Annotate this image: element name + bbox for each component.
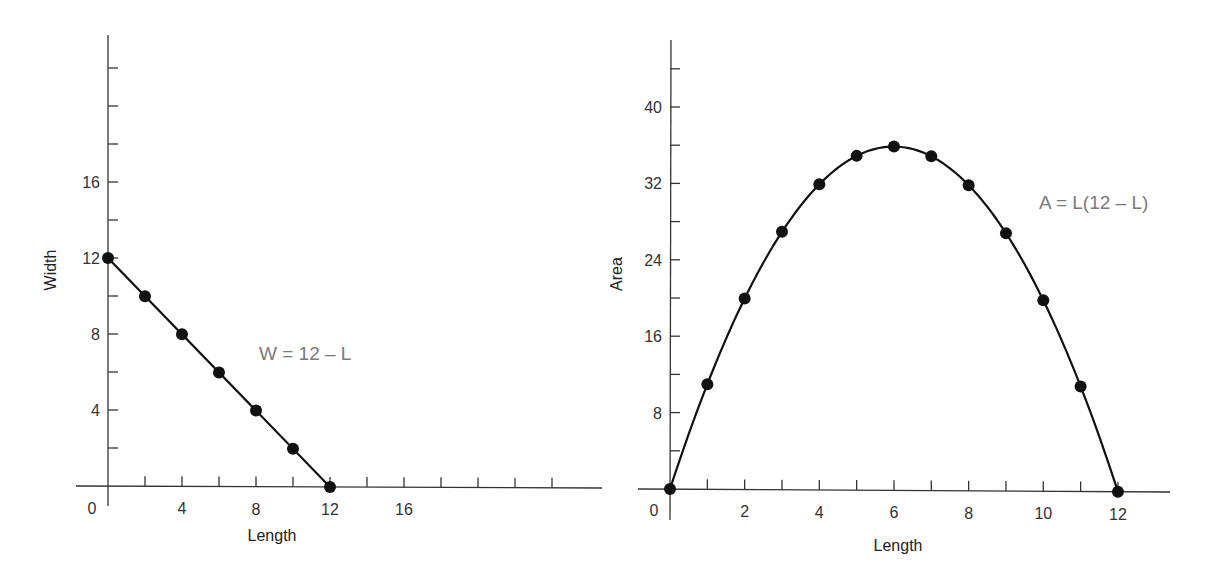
left-equation-label: W = 12 – L <box>259 343 351 364</box>
right-x-axis <box>638 489 1170 492</box>
left-y-axis-title: Width <box>42 250 59 291</box>
left-data-point <box>250 405 262 417</box>
left-x-tick-label: 4 <box>178 500 187 517</box>
right-y-tick-label: 8 <box>653 405 662 422</box>
left-x-axis-title: Length <box>248 527 297 544</box>
left-x-tick-label: 8 <box>252 501 261 518</box>
right-x-tick-label: 10 <box>1034 505 1052 522</box>
left-x-ticks: 481216 <box>145 476 552 518</box>
right-y-axis <box>670 40 671 520</box>
left-x-tick-label: 16 <box>395 501 413 518</box>
right-y-tick-label: 40 <box>644 99 662 116</box>
right-data-point <box>1000 227 1012 239</box>
right-y-axis-title: Area <box>608 257 625 291</box>
left-data-series <box>102 252 336 493</box>
right-x-ticks: 24681012 <box>707 479 1127 522</box>
right-data-point <box>701 378 713 390</box>
area-vs-length-chart: 816243240 24681012 0 Length Area A = L(1… <box>608 40 1170 554</box>
width-vs-length-chart: 481216 481216 0 Length Width W = 12 – L <box>42 35 602 544</box>
right-data-point <box>925 150 937 162</box>
right-y-tick-label: 24 <box>644 252 662 269</box>
right-x-tick-label: 12 <box>1109 506 1127 523</box>
right-data-point <box>1112 486 1124 498</box>
right-data-point <box>739 292 751 304</box>
left-data-point <box>102 252 114 264</box>
right-x-tick-label: 8 <box>964 505 973 522</box>
right-x-tick-label: 2 <box>740 503 749 520</box>
left-y-tick-label: 12 <box>82 250 100 267</box>
right-data-point <box>963 179 975 191</box>
right-data-point <box>851 150 863 162</box>
right-x-tick-label: 4 <box>815 504 824 521</box>
right-x-axis-title: Length <box>874 537 923 554</box>
left-data-point <box>176 328 188 340</box>
right-x-tick-label: 6 <box>890 504 899 521</box>
right-data-point <box>888 141 900 153</box>
left-data-point <box>213 366 225 378</box>
left-x-axis <box>76 486 602 488</box>
right-y-tick-label: 16 <box>644 328 662 345</box>
left-data-point <box>324 481 336 493</box>
left-data-point <box>139 290 151 302</box>
charts-canvas: 481216 481216 0 Length Width W = 12 – L … <box>0 0 1207 576</box>
left-y-tick-label: 4 <box>91 402 100 419</box>
left-x-tick-label: 12 <box>321 501 339 518</box>
right-y-ticks: 816243240 <box>644 69 680 451</box>
left-data-point <box>287 443 299 455</box>
right-data-point <box>813 178 825 190</box>
right-data-point <box>664 483 676 495</box>
right-equation-label: A = L(12 – L) <box>1039 192 1148 213</box>
left-origin-label: 0 <box>88 500 97 517</box>
right-origin-label: 0 <box>650 502 659 519</box>
right-data-point <box>1075 380 1087 392</box>
right-data-point <box>1037 294 1049 306</box>
right-data-point <box>776 226 788 238</box>
left-y-tick-label: 8 <box>91 326 100 343</box>
left-y-tick-label: 16 <box>82 174 100 191</box>
right-y-tick-label: 32 <box>644 175 662 192</box>
